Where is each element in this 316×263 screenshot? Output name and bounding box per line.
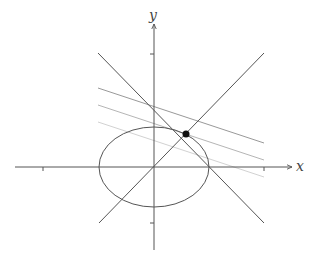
level-line-3	[98, 122, 264, 177]
y-axis-label: y	[148, 7, 158, 23]
x-axis-label: x	[296, 158, 304, 174]
tangent-point	[183, 131, 190, 138]
coordinate-diagram: x y	[0, 0, 316, 263]
level-line-1	[98, 88, 264, 143]
